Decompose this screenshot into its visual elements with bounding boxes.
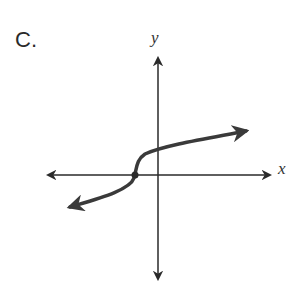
inflection-point-dot [132,172,139,179]
graph-figure: C. y x [0,0,299,281]
coordinate-plane [0,0,299,281]
